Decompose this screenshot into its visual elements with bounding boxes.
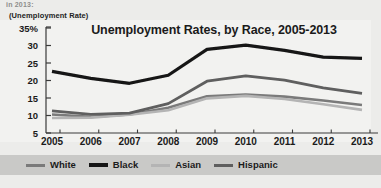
clipped-top-text: in 2013:	[6, 0, 76, 9]
legend-item-hispanic[interactable]: Hispanic	[214, 160, 278, 170]
chart-title: Unemployment Rates, by Race, 2005-2013	[64, 23, 364, 37]
legend-swatch-icon	[26, 164, 45, 167]
y-axis-caption: (Unemployment Rate)	[9, 11, 88, 20]
x-tick-label: 2013	[351, 136, 373, 148]
x-tick-label: 2005	[41, 136, 63, 148]
x-tick-label: 2011	[274, 136, 296, 148]
axis-lines	[38, 20, 378, 142]
x-tick-label: 2010	[235, 136, 257, 148]
plot-panel	[0, 20, 371, 142]
legend-swatch-icon	[214, 164, 233, 167]
x-tick-label: 2007	[118, 136, 140, 148]
legend-item-white[interactable]: White	[26, 160, 76, 170]
y-tick-label: 35%	[19, 24, 38, 33]
x-tick-label: 2008	[157, 136, 179, 148]
legend-swatch-icon	[151, 164, 170, 167]
y-tick-label: 25	[27, 59, 38, 68]
chart-figure: in 2013: (Unemployment Rate) Unemploymen…	[0, 0, 381, 188]
y-axis-labels: 35%30252015105	[0, 20, 42, 142]
legend-swatch-icon	[89, 163, 108, 167]
y-tick-label: 10	[27, 111, 38, 120]
y-tick-label: 20	[27, 76, 38, 85]
legend-item-label: Black	[113, 160, 138, 170]
figure-bottom-margin	[0, 175, 381, 188]
x-tick-label: 2006	[80, 136, 102, 148]
legend-item-asian[interactable]: Asian	[151, 160, 201, 170]
legend-item-label: White	[50, 160, 76, 170]
legend-item-label: Hispanic	[238, 160, 278, 170]
x-tick-label: 2012	[312, 136, 334, 148]
x-axis-labels: 200520062007200820092010201120122013	[46, 136, 370, 150]
y-tick-label: 15	[27, 94, 38, 103]
y-tick-label: 30	[27, 41, 38, 50]
y-tick-label: 5	[33, 129, 38, 138]
legend-item-black[interactable]: Black	[89, 160, 138, 170]
chart-legend: WhiteBlackAsianHispanic	[26, 157, 291, 173]
x-tick-label: 2009	[196, 136, 218, 148]
legend-item-label: Asian	[175, 160, 201, 170]
